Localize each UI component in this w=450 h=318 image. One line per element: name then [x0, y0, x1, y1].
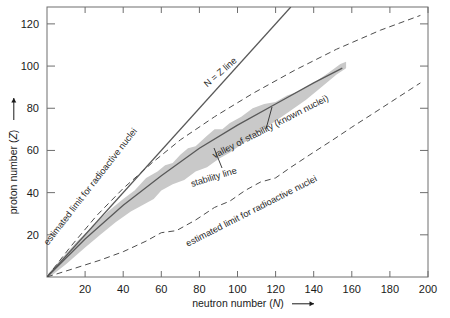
nuclide-chart-svg: N = Z linevalley of stability (known nuc…	[0, 0, 450, 318]
series-3	[47, 83, 420, 277]
x-tick-label-20: 20	[79, 283, 91, 295]
svg-text:neutron number (N): neutron number (N)	[192, 297, 284, 309]
x-axis-title: neutron number (N)	[192, 297, 314, 309]
valley-of-stability-band	[47, 62, 346, 279]
y-axis-tick-labels: 20406080100120	[21, 18, 39, 241]
annotation-label: N = Z line	[202, 55, 238, 89]
y-axis-title: proton number (Z)	[7, 98, 19, 214]
y-tick-label-80: 80	[27, 102, 39, 114]
y-axis-arrow	[11, 98, 16, 120]
y-axis-title-tail: )	[7, 130, 19, 134]
caption-cutoff-strip	[0, 311, 450, 318]
x-tick-label-40: 40	[117, 283, 129, 295]
x-tick-label-200: 200	[419, 283, 437, 295]
y-tick-label-120: 120	[21, 18, 39, 30]
y-axis-ticks-right	[420, 24, 428, 235]
y-axis-ticks-left	[47, 24, 55, 235]
x-axis-tick-labels: 20406080100120140160180200	[79, 283, 437, 295]
x-axis-title-text: neutron number (	[192, 297, 273, 309]
svg-text:proton number (Z): proton number (Z)	[7, 130, 19, 215]
x-tick-label-140: 140	[305, 283, 323, 295]
y-tick-label-20: 20	[27, 229, 39, 241]
y-tick-label-100: 100	[21, 60, 39, 72]
x-axis-ticks-top	[85, 7, 428, 13]
x-tick-label-160: 160	[343, 283, 361, 295]
x-tick-label-60: 60	[155, 283, 167, 295]
x-tick-label-120: 120	[266, 283, 284, 295]
y-axis-title-text: proton number (	[7, 139, 19, 214]
chart-figure: N = Z linevalley of stability (known nuc…	[0, 0, 450, 318]
x-axis-title-tail: )	[280, 297, 284, 309]
x-tick-label-180: 180	[381, 283, 399, 295]
series-0	[47, 7, 291, 277]
x-axis-ticks-bottom	[85, 271, 428, 277]
annotation-n-equals-z-line: N = Z line	[202, 55, 238, 89]
x-axis-arrow	[292, 301, 314, 306]
y-tick-label-60: 60	[27, 144, 39, 156]
x-tick-label-100: 100	[228, 283, 246, 295]
x-tick-label-80: 80	[193, 283, 205, 295]
y-tick-label-40: 40	[27, 187, 39, 199]
